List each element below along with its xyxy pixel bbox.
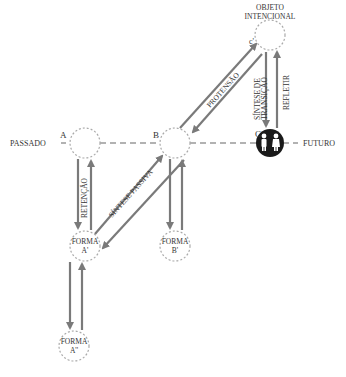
arrow-protensao-down — [193, 54, 262, 132]
forma-b1-line1: FORMA — [162, 237, 189, 246]
retencao-label: RETENÇÃO — [79, 177, 89, 218]
forma-a1-line1: FORMA — [72, 237, 99, 246]
timeline-left-label: PASSADO — [10, 139, 46, 148]
refletir-label: REFLETIR — [282, 75, 291, 110]
sintese-passiva-label: SÍNTESE PASSIVA — [106, 167, 155, 220]
sintese-transicao-label-2: TRANSIÇÃO — [259, 76, 269, 120]
node-c-label: C — [255, 129, 261, 139]
forma-b1-line2: B' — [172, 246, 179, 255]
diagram-canvas: PASSADO FUTURO A B c' OBJETO INTENCIONAL… — [0, 0, 346, 377]
node-b-label: B — [153, 130, 159, 140]
forma-a2-line2: A'' — [70, 346, 79, 355]
timeline-right-label: FUTURO — [303, 139, 335, 148]
objeto-label-line2: INTENCIONAL — [245, 12, 296, 21]
forma-a1-line2: A' — [82, 246, 89, 255]
node-b — [160, 128, 190, 158]
node-a-label: A — [60, 130, 67, 140]
node-c-prime-label: c' — [249, 37, 255, 46]
arrow-protensao-up — [180, 44, 256, 128]
node-objeto-intencional — [255, 20, 285, 50]
objeto-label-line1: OBJETO — [256, 3, 284, 12]
arrows — [70, 44, 277, 330]
forma-a2-line1: FORMA — [61, 337, 88, 346]
protensao-label: PROTENSÃO — [204, 69, 241, 109]
node-a — [70, 128, 100, 158]
